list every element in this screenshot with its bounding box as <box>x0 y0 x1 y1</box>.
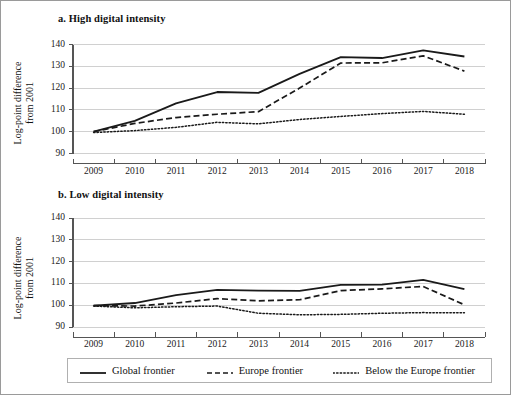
panel-a-y-tick-130: 130 <box>41 60 65 70</box>
panel-a-x-tick-2016: 2016 <box>362 166 402 176</box>
legend-swatch-dashed-icon <box>207 365 233 377</box>
panel-a-y-tick-100: 100 <box>41 126 65 136</box>
panel-b-y-tick-100: 100 <box>41 299 65 309</box>
panel-a-x-tick-2018: 2018 <box>444 166 484 176</box>
legend-label-global-frontier: Global frontier <box>112 365 175 376</box>
panel-b-x-tick-2009: 2009 <box>74 339 114 349</box>
panel-b-y-tick-90: 90 <box>41 321 65 331</box>
legend-item-global-frontier: Global frontier <box>80 365 175 377</box>
panel-a-x-tick-2014: 2014 <box>280 166 320 176</box>
panel-b-x-tick-2018: 2018 <box>444 339 484 349</box>
panel-a-x-tick-2015: 2015 <box>321 166 361 176</box>
legend-swatch-solid-icon <box>80 365 106 377</box>
legend-item-europe-frontier: Europe frontier <box>207 365 303 377</box>
panel-a-x-tick-2017: 2017 <box>403 166 443 176</box>
panel-b-y-tick-130: 130 <box>41 234 65 244</box>
panel-a-y-tick-110: 110 <box>41 104 65 114</box>
figure-container: a. High digital intensity Log-point diff… <box>0 0 511 395</box>
panel-a-y-tick-120: 120 <box>41 82 65 92</box>
panel-b-y-tick-120: 120 <box>41 256 65 266</box>
panel-a-x-tick-2013: 2013 <box>238 166 278 176</box>
legend-swatch-dotted-icon <box>333 365 359 377</box>
panel-a-x-tick-2012: 2012 <box>197 166 237 176</box>
chart-legend: Global frontier Europe frontier Below th… <box>67 358 492 383</box>
panel-b-y-tick-140: 140 <box>41 212 65 222</box>
panel-a-x-tick-2010: 2010 <box>115 166 155 176</box>
panel-a-x-tick-2011: 2011 <box>156 166 196 176</box>
panel-b-y-tick-110: 110 <box>41 277 65 287</box>
panel-b-x-tick-2013: 2013 <box>238 339 278 349</box>
panel-a-y-tick-140: 140 <box>41 39 65 49</box>
panel-b-x-tick-2014: 2014 <box>280 339 320 349</box>
panel-b-x-tick-2011: 2011 <box>156 339 196 349</box>
panel-b-x-tick-2017: 2017 <box>403 339 443 349</box>
legend-item-below-europe-frontier: Below the Europe frontier <box>333 365 475 377</box>
panel-b-series-1 <box>94 286 465 306</box>
panel-b-x-tick-2010: 2010 <box>115 339 155 349</box>
panel-a-y-tick-90: 90 <box>41 148 65 158</box>
panel-b-x-tick-2015: 2015 <box>321 339 361 349</box>
panel-b-series-2 <box>94 306 465 315</box>
legend-label-below-europe-frontier: Below the Europe frontier <box>365 365 475 376</box>
panel-a-x-tick-2009: 2009 <box>74 166 114 176</box>
panel-b-plot <box>1 1 511 395</box>
panel-b-x-tick-2012: 2012 <box>197 339 237 349</box>
legend-label-europe-frontier: Europe frontier <box>239 365 303 376</box>
panel-b-x-tick-2016: 2016 <box>362 339 402 349</box>
